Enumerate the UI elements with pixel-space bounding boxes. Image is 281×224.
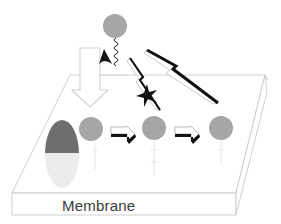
membrane-label: Membrane — [62, 197, 135, 214]
membrane-diagram: Membrane — [0, 0, 281, 224]
diagram-canvas — [0, 0, 281, 224]
node-circle-1 — [79, 117, 103, 141]
node-circle-2 — [142, 116, 166, 140]
wavy-tether — [114, 38, 118, 66]
ligand-circle — [103, 14, 127, 38]
node-circle-3 — [209, 116, 233, 140]
black-arrowhead-icon — [99, 49, 112, 64]
